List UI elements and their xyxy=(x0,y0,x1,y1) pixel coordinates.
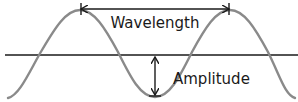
amplitude-label: Amplitude xyxy=(173,70,250,88)
wave-diagram: Wavelength Amplitude xyxy=(0,0,298,102)
amplitude-arrow xyxy=(149,57,161,96)
wavelength-label: Wavelength xyxy=(111,14,200,32)
